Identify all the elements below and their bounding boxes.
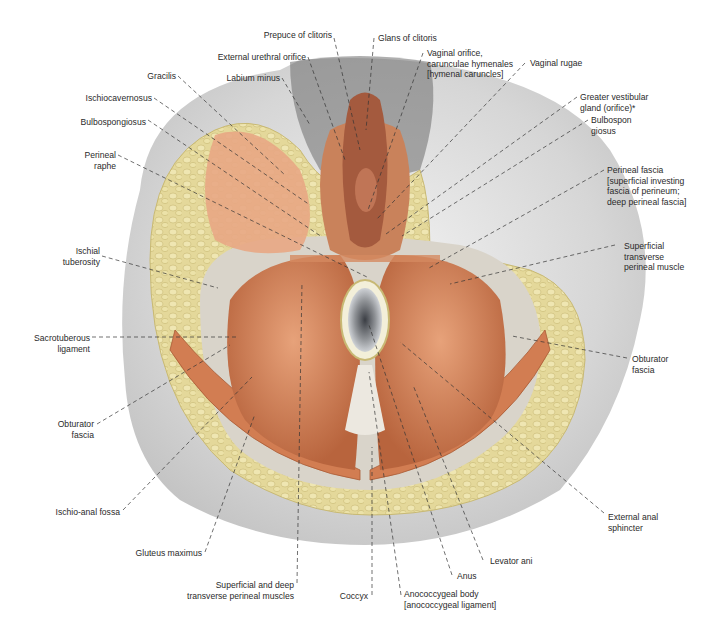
label-labium-minus: Labium minus [210, 73, 280, 84]
label-prepuce-of-clitoris: Prepuce of clitoris [228, 30, 332, 41]
label-gracilis: Gracilis [120, 71, 176, 82]
label-levator-ani: Levator ani [490, 556, 533, 567]
label-perineal-raphe: Perineal raphe [60, 150, 116, 171]
label-ischio-anal-fossa: Ischio-anal fossa [20, 507, 120, 518]
label-bulbospongiosus-right: Bulbospon giosus [591, 115, 632, 136]
label-gluteus-maximus: Gluteus maximus [110, 548, 202, 559]
label-greater-vestibular-gland: Greater vestibular gland (orifice)* [580, 92, 648, 113]
label-bulbospongiosus-left: Bulbospongiosus [50, 117, 146, 128]
label-superficial-transverse-perineal-muscle: Superficial transverse perineal muscle [624, 241, 684, 273]
label-vaginal-orifice: Vaginal orifice, carunculae hymenales [h… [427, 48, 513, 80]
label-anococcygeal-body: Anococcygeal body [anococcygeal ligament… [404, 589, 496, 610]
anatomy-figure: Prepuce of clitoris Glans of clitoris Ex… [0, 0, 723, 628]
label-ischial-tuberosity: Ischial tuberosity [40, 246, 100, 267]
label-external-urethral-orifice: External urethral orifice [190, 52, 306, 63]
label-obturator-fascia-left: Obturator fascia [40, 419, 94, 440]
label-sacrotuberous-ligament: Sacrotuberous ligament [10, 333, 90, 354]
label-perineal-fascia: Perineal fascia [superficial investing f… [607, 165, 686, 207]
label-external-anal-sphincter: External anal sphincter [608, 512, 658, 533]
label-glans-of-clitoris: Glans of clitoris [378, 33, 437, 44]
label-obturator-fascia-right: Obturator fascia [632, 354, 668, 375]
label-anus: Anus [457, 571, 477, 582]
label-coccyx: Coccyx [330, 591, 368, 602]
label-ischiocavernosus: Ischiocavernosus [60, 93, 152, 104]
label-superficial-and-deep-transverse-perineal-muscles: Superficial and deep transverse perineal… [160, 580, 294, 601]
label-vaginal-rugae: Vaginal rugae [530, 58, 582, 69]
